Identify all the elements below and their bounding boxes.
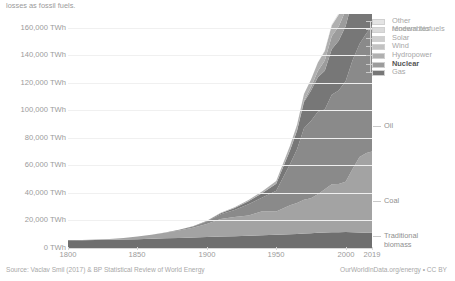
x-tick-label: 1950	[268, 250, 285, 260]
y-tick-label: 100,000 TWh	[4, 106, 66, 114]
gridline	[68, 165, 372, 166]
gridline	[68, 110, 372, 111]
y-axis: 0 TWh20,000 TWh40,000 TWh60,000 TWh80,00…	[0, 14, 66, 248]
gridline	[68, 193, 372, 194]
y-tick-label: 60,000 TWh	[4, 161, 66, 169]
y-tick-label: 120,000 TWh	[4, 79, 66, 87]
x-tick-label: 1800	[60, 250, 77, 260]
gridline	[68, 138, 372, 139]
legend-swatch	[372, 44, 385, 50]
x-tick-mark	[372, 247, 373, 250]
legend-item-gas[interactable]: Gas	[392, 68, 406, 76]
series-label-oil: Oil	[384, 122, 393, 131]
x-tick-mark	[207, 247, 208, 250]
stacked-area-plot	[68, 14, 372, 248]
x-tick-mark	[137, 247, 138, 250]
x-tick-label: 2000	[338, 250, 355, 260]
credit-note[interactable]: OurWorldInData.org/energy • CC BY	[340, 265, 447, 274]
legend-item-label: Hydropower	[392, 50, 432, 59]
x-tick-label: 1850	[129, 250, 146, 260]
legend-leader-line	[366, 29, 372, 30]
legend-item-label: Nuclear	[392, 59, 419, 68]
y-tick-label: 80,000 TWh	[4, 134, 66, 142]
legend-swatch	[372, 62, 385, 68]
legend-leader-line	[366, 64, 372, 65]
chart-subtitle: losses as fossil fuels.	[6, 1, 75, 11]
plot-area	[68, 14, 372, 248]
y-tick-label: 40,000 TWh	[4, 189, 66, 197]
x-axis: 180018501900195020002019	[68, 250, 378, 262]
legend-swatch	[372, 36, 385, 42]
legend-leader-line	[366, 38, 372, 39]
y-tick-label: 0 TWh	[4, 244, 66, 252]
legend-bracket-spine	[370, 21, 371, 73]
x-tick-label: 2019	[364, 250, 381, 260]
series-label-coal: Coal	[384, 197, 399, 206]
gridline	[68, 220, 372, 221]
x-tick-label: 1900	[199, 250, 216, 260]
chart-legend: OtherrenewablesModern biofuelsSolarWindH…	[370, 14, 455, 92]
gridline	[68, 28, 372, 29]
series-leader-line	[373, 126, 381, 127]
legend-leader-line	[366, 72, 372, 73]
legend-leader-line	[366, 55, 372, 56]
gridline	[68, 83, 372, 84]
x-tick-mark	[68, 247, 69, 250]
legend-leader-line	[366, 21, 372, 22]
series-leader-line	[373, 236, 381, 237]
y-tick-label: 20,000 TWh	[4, 216, 66, 224]
y-tick-label: 140,000 TWh	[4, 51, 66, 59]
series-leader-line	[373, 201, 381, 202]
y-tick-label: 160,000 TWh	[4, 24, 66, 32]
x-tick-mark	[346, 247, 347, 250]
x-tick-mark	[276, 247, 277, 250]
source-note: Source: Vaclav Smil (2017) & BP Statisti…	[6, 265, 205, 274]
gridline	[68, 55, 372, 56]
legend-leader-line	[366, 46, 372, 47]
series-label-traditional-biomass: Traditionalbiomass	[384, 232, 418, 249]
legend-item-label: Gas	[392, 67, 406, 76]
legend-swatch	[372, 53, 385, 59]
legend-swatch	[372, 27, 385, 33]
legend-swatch	[372, 19, 385, 25]
chart-footer: Source: Vaclav Smil (2017) & BP Statisti…	[0, 265, 455, 279]
gridline	[68, 248, 372, 249]
legend-swatch	[372, 70, 385, 76]
